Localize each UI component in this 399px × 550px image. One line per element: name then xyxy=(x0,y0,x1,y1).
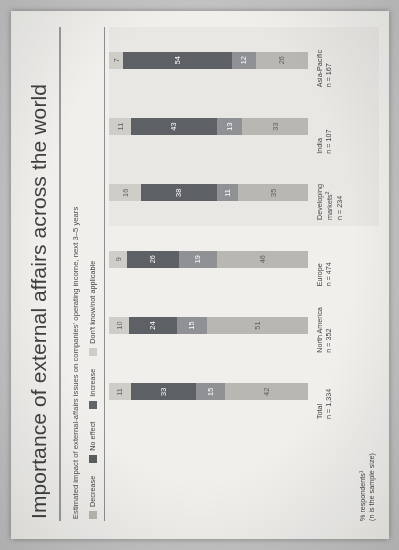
category-name: India xyxy=(315,93,324,153)
legend-divider xyxy=(104,27,105,521)
bar-segment-decrease: 46 xyxy=(216,251,308,268)
bar-segment-dont_know: 9 xyxy=(109,251,127,268)
category-sample-size: n = 1,334 xyxy=(324,359,333,419)
bar-segment-no_effect: 11 xyxy=(216,184,238,201)
category-name: North America xyxy=(315,292,324,352)
axis-header-text: % respondents¹ (n is the sample size) xyxy=(358,425,378,521)
bar-wrapper: 4619269 xyxy=(109,226,308,292)
bar-segment-no_effect: 13 xyxy=(216,118,242,135)
category-sample-size: n = 234 xyxy=(335,160,344,220)
chart-column: 51152410North American = 352 xyxy=(109,292,379,358)
stacked-bar[interactable]: 51152410 xyxy=(109,317,308,334)
legend-label-decrease: Decrease xyxy=(88,476,97,507)
stacked-bar[interactable]: 42153311 xyxy=(109,383,308,400)
bar-segment-no_effect: 15 xyxy=(195,383,225,400)
bar-segment-decrease: 33 xyxy=(242,118,308,135)
category-name: Europe xyxy=(315,226,324,286)
bar-segment-dont_know: 11 xyxy=(109,118,131,135)
category-footnote-marker: 2 xyxy=(324,191,330,194)
category-label-inner: Totaln = 1,334 xyxy=(315,359,334,425)
legend-item-decrease: Decrease xyxy=(88,476,97,519)
category-label-group: Europen = 474 xyxy=(308,226,379,292)
axis-header-line1: % respondents¹ xyxy=(358,471,367,521)
chart-column: 2612547Asia-Pacificn = 167 xyxy=(109,27,379,93)
slide-frame: Importance of external affairs across th… xyxy=(0,0,399,550)
stacked-bar[interactable]: 33134311 xyxy=(109,118,308,135)
bar-segment-dont_know: 11 xyxy=(109,383,131,400)
bar-segment-no_effect: 19 xyxy=(178,251,216,268)
category-label-inner: Asia-Pacificn = 167 xyxy=(315,27,334,93)
category-sample-size: n = 167 xyxy=(324,27,333,87)
legend-swatch-increase xyxy=(88,401,96,409)
chart-column: 33134311Indian = 107 xyxy=(109,93,379,159)
chart-area: % respondents¹ (n is the sample size) 42… xyxy=(109,27,379,521)
axis-header: % respondents¹ (n is the sample size) xyxy=(109,425,379,521)
category-name: Developing markets2 xyxy=(315,160,335,220)
legend-item-increase: Increase xyxy=(88,369,97,409)
category-label-group: North American = 352 xyxy=(308,292,379,358)
bar-wrapper: 42153311 xyxy=(109,359,308,425)
bar-segment-decrease: 26 xyxy=(255,52,307,69)
chart-columns: 42153311Totaln = 1,33451152410North Amer… xyxy=(109,27,379,425)
bar-segment-no_effect: 15 xyxy=(176,317,206,334)
category-name: Total xyxy=(315,359,324,419)
bar-segment-decrease: 51 xyxy=(206,317,307,334)
category-label-inner: Europen = 474 xyxy=(315,226,334,292)
bar-segment-increase: 43 xyxy=(130,118,216,135)
legend-swatch-decrease xyxy=(88,511,96,519)
category-name: Asia-Pacific xyxy=(315,27,324,87)
axis-header-line2: (n is the sample size) xyxy=(367,453,376,521)
category-label-group: Indian = 107 xyxy=(308,93,379,159)
category-sample-size: n = 474 xyxy=(324,226,333,286)
category-label-inner: North American = 352 xyxy=(315,292,334,358)
legend-swatch-dont-know xyxy=(88,348,96,356)
category-label-group: Asia-Pacificn = 167 xyxy=(308,27,379,93)
bar-segment-dont_know: 16 xyxy=(109,184,141,201)
category-sample-size: n = 352 xyxy=(324,292,333,352)
bar-wrapper: 35113816 xyxy=(109,160,308,226)
category-label-inner: Developing markets2n = 234 xyxy=(315,160,344,226)
bar-segment-increase: 38 xyxy=(140,184,216,201)
bar-segment-increase: 33 xyxy=(130,383,195,400)
chart-subtitle: Estimated impact of external-affairs iss… xyxy=(71,27,80,519)
slide: Importance of external affairs across th… xyxy=(11,11,389,539)
category-label-group: Developing markets2n = 234 xyxy=(308,160,379,226)
category-sample-size: n = 107 xyxy=(324,93,333,153)
legend-swatch-no-effect xyxy=(88,455,96,463)
chart-column: 4619269Europen = 474 xyxy=(109,226,379,292)
legend-label-dont-know: Don't know/not applicable xyxy=(88,261,97,344)
stacked-bar[interactable]: 2612547 xyxy=(109,52,308,69)
bar-wrapper: 51152410 xyxy=(109,292,308,358)
title-divider xyxy=(59,27,61,521)
bar-segment-no_effect: 12 xyxy=(231,52,255,69)
bar-segment-increase: 24 xyxy=(128,317,176,334)
chart-column: 35113816Developing markets2n = 234 xyxy=(109,160,379,226)
category-label-group: Totaln = 1,334 xyxy=(308,359,379,425)
legend-label-increase: Increase xyxy=(88,369,97,397)
page-title: Importance of external affairs across th… xyxy=(27,27,50,519)
legend-label-no-effect: No effect xyxy=(88,422,97,451)
chart-column: 42153311Totaln = 1,334 xyxy=(109,359,379,425)
category-label-inner: Indian = 107 xyxy=(315,93,334,159)
legend-item-dont-know: Don't know/not applicable xyxy=(88,261,97,356)
bar-segment-dont_know: 10 xyxy=(109,317,129,334)
stacked-bar[interactable]: 35113816 xyxy=(109,184,308,201)
legend-item-no-effect: No effect xyxy=(88,422,97,463)
bar-wrapper: 2612547 xyxy=(109,27,308,93)
bar-segment-increase: 26 xyxy=(126,251,178,268)
bar-segment-decrease: 35 xyxy=(238,184,308,201)
bar-segment-increase: 54 xyxy=(123,52,232,69)
bar-wrapper: 33134311 xyxy=(109,93,308,159)
chart-legend: DecreaseNo effectIncreaseDon't know/not … xyxy=(88,27,97,519)
stacked-bar[interactable]: 4619269 xyxy=(109,251,308,268)
bar-segment-decrease: 42 xyxy=(225,383,308,400)
bar-segment-dont_know: 7 xyxy=(109,52,123,69)
